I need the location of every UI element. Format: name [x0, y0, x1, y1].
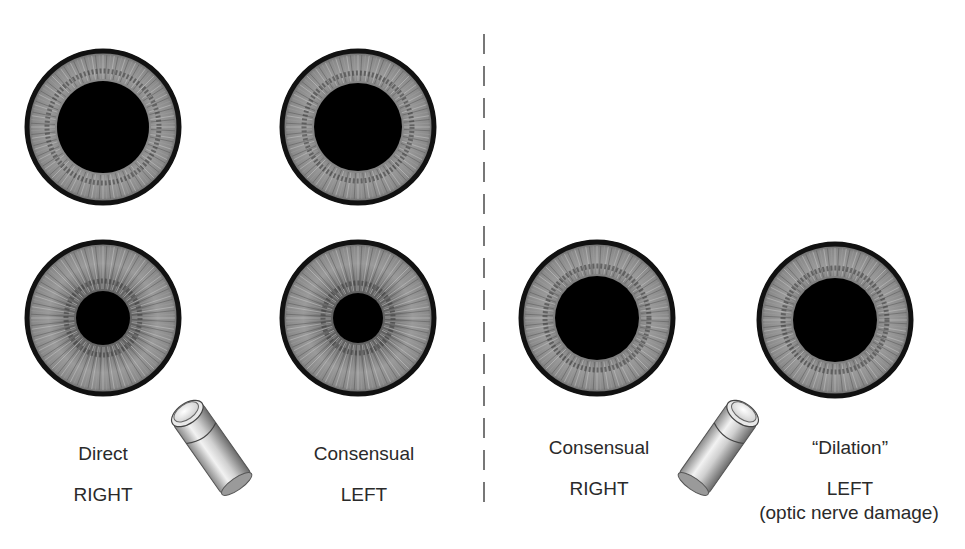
eye-top-right	[23, 47, 183, 207]
label-right: RIGHT	[73, 484, 132, 506]
eye-consensual-right	[517, 238, 677, 398]
dashed-divider	[483, 34, 485, 502]
label-right-2: RIGHT	[569, 478, 628, 500]
label-dilation: “Dilation”	[812, 437, 888, 459]
penlight-left-icon	[158, 388, 258, 498]
label-left-2: LEFT	[827, 478, 873, 500]
label-direct: Direct	[78, 443, 128, 465]
label-consensual-right: Consensual	[549, 437, 649, 459]
penlight-right-icon	[672, 388, 772, 498]
eye-direct-right	[23, 238, 183, 398]
eye-dilation-left	[755, 240, 915, 400]
label-left: LEFT	[341, 484, 387, 506]
eye-top-left	[278, 47, 438, 207]
label-optic-nerve-damage: (optic nerve damage)	[759, 502, 939, 524]
eye-consensual-left	[278, 238, 438, 398]
label-consensual: Consensual	[314, 443, 414, 465]
